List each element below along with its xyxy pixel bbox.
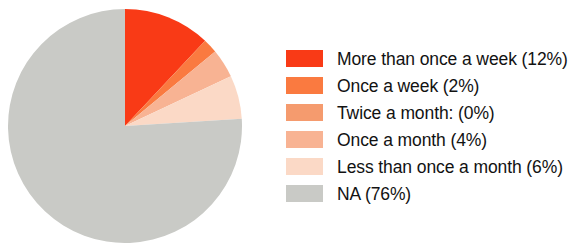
legend-item-label: Twice a month: (0%) — [337, 103, 495, 123]
pie-chart-plot-area — [8, 9, 242, 243]
pie-chart-svg — [8, 9, 242, 243]
legend-item: Once a week (2%) — [286, 72, 585, 99]
legend-item: Less than once a month (6%) — [286, 153, 585, 180]
legend-color-swatch — [286, 185, 323, 202]
legend-item: Once a month (4%) — [286, 126, 585, 153]
legend-color-swatch — [286, 131, 323, 148]
legend-item-label: NA (76%) — [337, 184, 411, 204]
pie-chart-figure: More than once a week (12%)Once a week (… — [0, 0, 585, 244]
legend-color-swatch — [286, 50, 323, 67]
legend-color-swatch — [286, 104, 323, 121]
legend-color-swatch — [286, 158, 323, 175]
legend-item-label: Once a week (2%) — [337, 76, 479, 96]
pie-slice-group — [8, 9, 242, 243]
legend-item: More than once a week (12%) — [286, 45, 585, 72]
legend-item: Twice a month: (0%) — [286, 99, 585, 126]
legend-color-swatch — [286, 77, 323, 94]
legend-item-label: Less than once a month (6%) — [337, 157, 563, 177]
legend-item-label: Once a month (4%) — [337, 130, 487, 150]
legend-item: NA (76%) — [286, 180, 585, 207]
legend-item-label: More than once a week (12%) — [337, 49, 568, 69]
chart-legend: More than once a week (12%)Once a week (… — [286, 45, 585, 207]
